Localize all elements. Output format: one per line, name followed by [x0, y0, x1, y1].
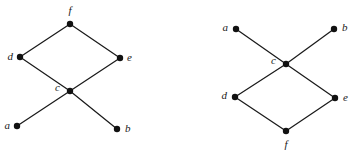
node-label-left-diagram-f: f — [68, 4, 73, 16]
figure-root: fdecababcdef — [0, 0, 354, 155]
graph-node-left-diagram-b — [114, 126, 120, 132]
graph-edge-left-diagram-c-e — [70, 58, 120, 91]
hasse-diagram-canvas: fdecababcdef — [0, 0, 354, 155]
graph-edge-right-diagram-a-c — [236, 29, 286, 64]
graph-node-left-diagram-d — [17, 54, 23, 60]
graph-node-left-diagram-a — [14, 123, 20, 129]
graph-edge-right-diagram-c-d — [235, 64, 286, 97]
graph-node-right-diagram-d — [232, 94, 238, 100]
node-label-right-diagram-a: a — [223, 21, 229, 33]
graph-edge-left-diagram-e-f — [70, 24, 120, 58]
node-label-right-diagram-e: e — [343, 91, 348, 103]
graph-node-left-diagram-e — [117, 55, 123, 61]
graph-node-right-diagram-a — [233, 26, 239, 32]
graph-node-right-diagram-c — [283, 61, 289, 67]
graph-node-left-diagram-f — [67, 21, 73, 27]
graph-edge-left-diagram-d-f — [20, 24, 70, 57]
labels-layer: fdecababcdef — [5, 4, 349, 150]
graph-edge-right-diagram-b-c — [286, 29, 334, 64]
graph-node-right-diagram-f — [283, 128, 289, 134]
node-label-right-diagram-c: c — [271, 54, 276, 66]
edges-layer — [17, 24, 335, 131]
node-label-left-diagram-a: a — [5, 119, 11, 131]
node-label-right-diagram-d: d — [222, 89, 228, 101]
graph-edge-right-diagram-e-f — [286, 98, 335, 131]
graph-edge-left-diagram-c-d — [20, 57, 70, 91]
nodes-layer — [14, 21, 338, 134]
graph-node-right-diagram-e — [332, 95, 338, 101]
graph-edge-right-diagram-c-e — [286, 64, 335, 98]
node-label-right-diagram-b: b — [342, 21, 348, 33]
graph-node-right-diagram-b — [331, 26, 337, 32]
node-label-left-diagram-d: d — [8, 50, 14, 62]
graph-edge-left-diagram-b-c — [70, 91, 117, 129]
graph-edge-left-diagram-a-c — [17, 91, 70, 126]
node-label-left-diagram-e: e — [127, 51, 132, 63]
graph-node-left-diagram-c — [67, 88, 73, 94]
graph-edge-right-diagram-d-f — [235, 97, 286, 131]
node-label-left-diagram-c: c — [55, 81, 60, 93]
node-label-right-diagram-f: f — [284, 138, 289, 150]
node-label-left-diagram-b: b — [125, 122, 131, 134]
